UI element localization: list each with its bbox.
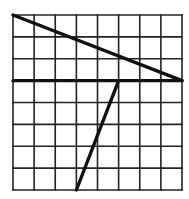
grid-diagram [0,0,189,199]
grid-lines [13,15,182,190]
